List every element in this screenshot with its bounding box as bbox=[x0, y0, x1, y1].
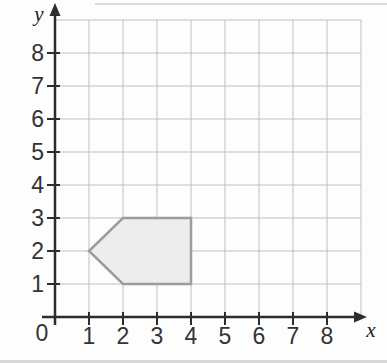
figure-background bbox=[0, 0, 387, 363]
x-tick-label: 4 bbox=[185, 323, 198, 349]
x-axis-label: x bbox=[365, 318, 376, 342]
x-tick-label: 6 bbox=[253, 323, 266, 349]
y-tick-label: 2 bbox=[31, 238, 44, 264]
y-axis-label: y bbox=[32, 2, 44, 26]
x-tick-label: 8 bbox=[321, 323, 334, 349]
x-tick-label: 2 bbox=[117, 323, 130, 349]
x-tick-label: 7 bbox=[287, 323, 300, 349]
origin-label: 0 bbox=[36, 320, 49, 346]
x-tick-label: 1 bbox=[83, 323, 96, 349]
coordinate-grid: 01234567812345678xy bbox=[0, 0, 387, 363]
y-tick-label: 3 bbox=[31, 205, 44, 231]
y-tick-label: 5 bbox=[31, 139, 44, 165]
x-tick-label: 3 bbox=[151, 323, 164, 349]
y-tick-label: 1 bbox=[31, 271, 44, 297]
x-tick-label: 5 bbox=[219, 323, 232, 349]
y-tick-label: 7 bbox=[31, 73, 44, 99]
coordinate-plane-figure: 01234567812345678xy bbox=[0, 0, 387, 363]
y-tick-label: 4 bbox=[31, 172, 44, 198]
y-tick-label: 6 bbox=[31, 106, 44, 132]
y-tick-label: 8 bbox=[31, 40, 44, 66]
